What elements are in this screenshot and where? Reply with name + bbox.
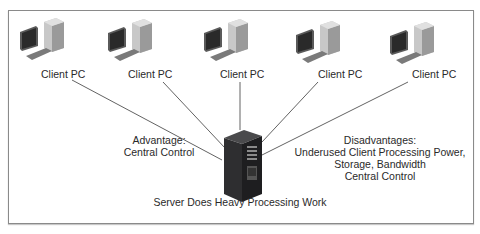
disadvantages-title: Disadvantages:: [290, 134, 470, 146]
client-pc-icon: [16, 18, 76, 64]
client-pc-label-4: Client PC: [318, 68, 362, 80]
server-tower-icon: [220, 128, 266, 202]
client-pc-icon: [200, 19, 260, 65]
client-pc-label-3: Client PC: [220, 68, 264, 80]
connection-line-4: [262, 82, 318, 142]
advantage-note: Advantage: Central Control: [104, 134, 214, 158]
client-pc-label-2: Client PC: [128, 68, 172, 80]
client-pc-icon: [104, 19, 164, 65]
disadvantages-note: Disadvantages: Underused Client Processi…: [290, 134, 470, 182]
client-pc-label-1: Client PC: [41, 68, 85, 80]
client-pc-label-5: Client PC: [412, 68, 456, 80]
disadvantages-line-1: Underused Client Processing Power,: [290, 146, 470, 158]
server-label: Server Does Heavy Processing Work: [140, 196, 340, 208]
advantage-line: Central Control: [104, 146, 214, 158]
advantage-title: Advantage:: [104, 134, 214, 146]
client-pc-icon: [386, 22, 446, 68]
disadvantages-line-2: Storage, Bandwidth: [290, 158, 470, 170]
disadvantages-line-3: Central Control: [290, 170, 470, 182]
client-pc-icon: [292, 21, 352, 67]
